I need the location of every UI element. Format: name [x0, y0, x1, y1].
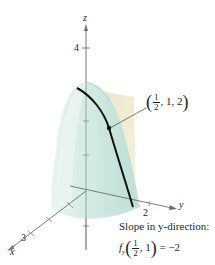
- x-tick-label: 3: [21, 232, 26, 243]
- z-axis-label: z: [83, 12, 87, 23]
- y-tick-2: [149, 201, 150, 206]
- slope-caption: Slope in y-direction:: [119, 220, 209, 232]
- z-tick-label: 4: [74, 42, 79, 53]
- point-label: (12, 1, 2): [146, 92, 189, 113]
- fraction: 12: [153, 93, 160, 112]
- z-axis-arrow-icon: [84, 24, 88, 31]
- x-axis-label: x: [10, 246, 14, 257]
- y-axis-arrow-icon: [169, 205, 177, 210]
- slope-formula: fy(12, 1) = −2: [119, 238, 180, 259]
- fraction: 12: [132, 239, 139, 258]
- x-axis: [7, 191, 86, 251]
- y-axis-label: y: [179, 199, 183, 210]
- y-tick-label: 2: [143, 207, 148, 218]
